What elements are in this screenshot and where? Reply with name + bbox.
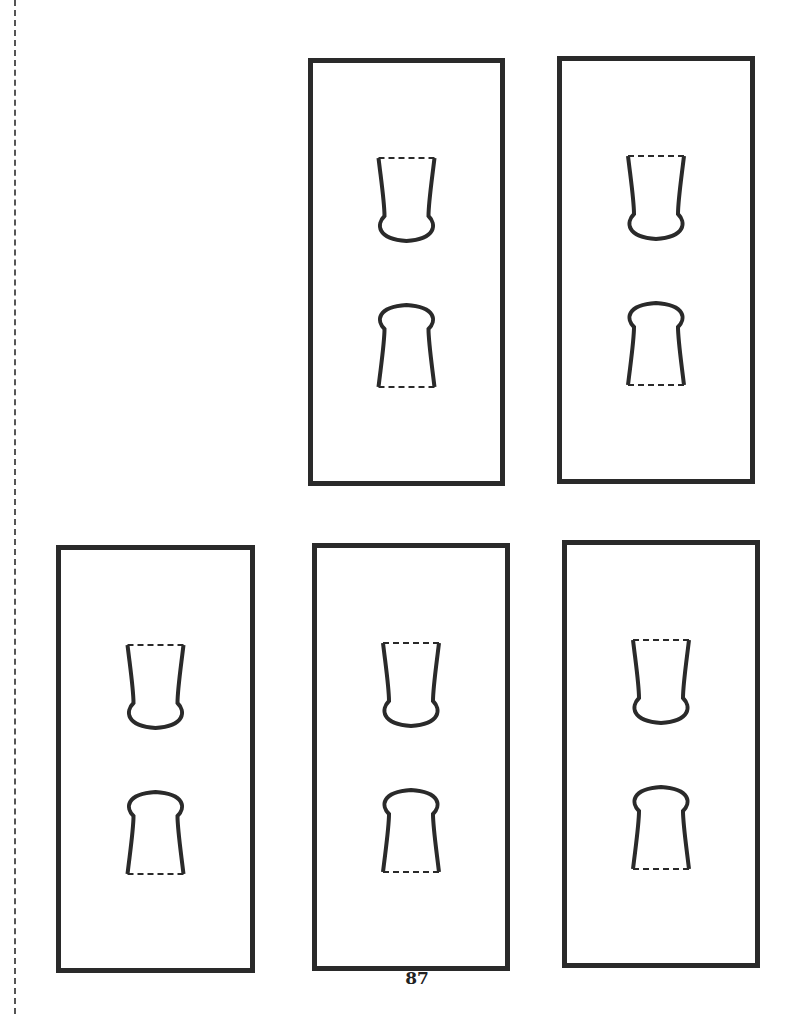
cutout-panel-bottom-right	[562, 540, 760, 968]
cup-cutout-shape	[379, 158, 435, 241]
cup-cutout-shape	[628, 156, 684, 239]
cutout-panel-top-right	[557, 56, 755, 484]
cutout-panel-bottom-middle	[312, 543, 510, 971]
cutout-panel-top-middle	[308, 58, 505, 486]
page-number: 87	[392, 968, 442, 988]
cutout-panel-bottom-left	[56, 545, 255, 973]
keyhole-cutout-shape	[383, 790, 439, 872]
dashed-cut-line	[14, 0, 16, 1014]
cup-cutout-shape	[633, 640, 689, 723]
keyhole-cutout-shape	[628, 303, 684, 385]
keyhole-cutout-shape	[379, 305, 435, 387]
keyhole-cutout-shape	[128, 792, 184, 874]
cup-cutout-shape	[383, 643, 439, 726]
keyhole-cutout-shape	[633, 787, 689, 869]
cup-cutout-shape	[128, 645, 184, 728]
